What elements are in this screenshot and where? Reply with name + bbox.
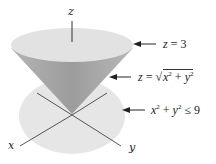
- z-axis-label: z: [68, 6, 74, 17]
- label-base-disk: x2 + y2 ≤ 9: [151, 104, 200, 116]
- x-axis-label: x: [8, 140, 14, 151]
- label-top-plane: z = 3: [163, 38, 186, 50]
- y-axis-label: y: [129, 142, 135, 153]
- arrow-base-disk: [122, 107, 145, 113]
- arrow-cone: [109, 74, 131, 80]
- label-cone-surface: z = √x2 + y2: [138, 69, 193, 83]
- arrow-top-plane: [133, 41, 156, 47]
